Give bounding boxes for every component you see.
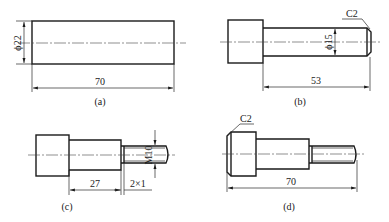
technical-drawing: ϕ22 70 (a) ϕ15 C2 53 (b) [0,0,389,222]
undercut-label: 2×1 [130,178,146,189]
thread-outline [309,146,356,163]
bar-outline [32,21,174,64]
chamfer-leader [228,124,254,135]
view-c: M10 27 2×1 (c) [28,130,175,213]
diameter-label: ϕ15 [323,34,334,49]
chamfer-label: C2 [346,8,358,19]
chamfer-label: C2 [240,113,252,124]
view-a: ϕ22 70 (a) [12,21,186,108]
head-outline [36,135,69,176]
length-label: 27 [90,178,100,189]
caption-b: (b) [294,96,306,108]
length-label: 70 [95,76,105,87]
view-d: C2 70 (d) [222,113,365,213]
length-label: 53 [311,75,321,86]
thread-label: M10 [143,146,154,165]
view-b: ϕ15 C2 53 (b) [220,8,380,108]
caption-d: (d) [283,201,295,213]
caption-c: (c) [61,201,72,213]
caption-a: (a) [94,96,105,108]
length-label: 70 [286,176,296,187]
head-outline [228,20,263,63]
shaft-outline [69,140,121,170]
diameter-label: ϕ22 [12,35,23,50]
